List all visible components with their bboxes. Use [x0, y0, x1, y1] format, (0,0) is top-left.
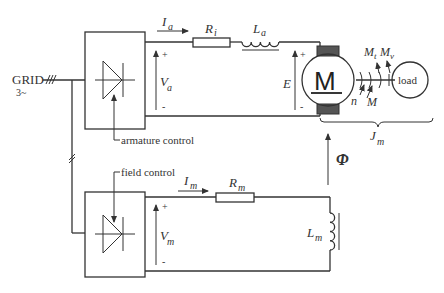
armature-control-label: armature control	[121, 134, 194, 146]
field-resistor-symbol: R	[228, 175, 237, 190]
grid-phase-label: 3~	[16, 87, 27, 98]
loss-torque-sub: t	[374, 51, 377, 61]
thyristor-icon	[95, 61, 135, 99]
inertia-symbol: J	[370, 128, 377, 143]
emf-plus: +	[300, 49, 306, 60]
grid-source: GRID 3~	[12, 72, 85, 233]
armature-resistor-symbol: R	[204, 21, 213, 36]
thyristor-icon	[95, 215, 135, 253]
torque-label: M	[366, 95, 378, 109]
three-phase-mark-icon	[46, 75, 56, 84]
motor-label: M	[314, 66, 336, 96]
armature-converter: armature control	[85, 32, 194, 146]
field-current-sub: m	[190, 180, 197, 191]
emf-minus: -	[300, 101, 303, 112]
armature-resistor-sub: i	[214, 27, 217, 38]
armature-voltage-minus: -	[162, 101, 165, 112]
field-resistor-sub: m	[238, 182, 245, 193]
flux-symbol: Φ	[336, 151, 349, 168]
field-current-symbol: I	[183, 173, 189, 188]
friction-torque-arrow-icon	[387, 61, 390, 73]
field-inductor-symbol: L	[306, 225, 314, 240]
friction-torque-sub: v	[390, 51, 394, 61]
armature-resistor	[193, 38, 230, 47]
field-voltage-sub: m	[167, 236, 174, 247]
field-inductor-sub: m	[315, 232, 322, 243]
inertia-sub: m	[377, 136, 384, 147]
speed-label: n	[351, 94, 357, 108]
armature-inductor-sub: a	[261, 27, 266, 38]
armature-voltage-sub: a	[167, 82, 172, 93]
loss-torque-arrow-icon	[377, 63, 379, 73]
armature-inductor	[242, 42, 279, 50]
field-inductor	[330, 213, 339, 250]
field-control-label: field control	[121, 166, 175, 178]
field-voltage-plus: +	[162, 201, 168, 212]
load-label: load	[398, 74, 417, 86]
armature-current-sub: a	[168, 21, 173, 32]
armature-inductor-symbol: L	[252, 21, 260, 36]
inertia-brace-icon	[320, 118, 433, 127]
grid-label: GRID	[12, 72, 44, 87]
dc-drive-diagram: GRID 3~ armature control I a	[0, 0, 444, 293]
field-resistor	[216, 193, 254, 202]
armature-current-symbol: I	[161, 14, 167, 29]
field-voltage-minus: -	[162, 256, 165, 267]
armature-voltage-plus: +	[162, 49, 168, 60]
emf-symbol: E	[282, 76, 291, 91]
